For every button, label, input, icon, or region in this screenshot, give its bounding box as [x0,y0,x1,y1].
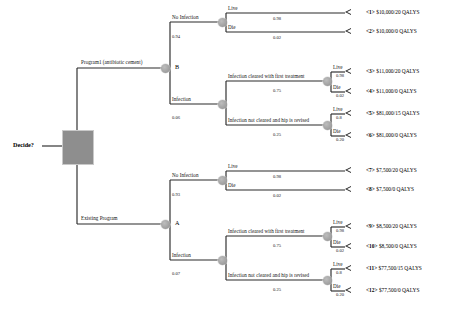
chance-node-no-infection-upper[interactable] [218,18,227,27]
prob-die-10: 0.02 [336,248,344,253]
terminal-payoff-2: <2> $10,000/0 QALYS [366,28,417,34]
chance-node-infection-lower[interactable] [218,256,227,265]
terminal-payoff-4: <4> $11,000/0 QALYS [366,88,417,94]
branch-label-die-12: Die [333,283,341,289]
terminal-id-11: <11> [366,265,377,271]
terminal-payoff-1: <1> $10,000/20 QALYS [366,9,419,15]
terminal-id-3: <3> [366,68,375,74]
terminal-payoff-10: <10> $8,500/0 QALYS [366,243,417,249]
branch-label-live-5: Live [333,106,343,112]
terminal-id-2: <2> [366,28,375,34]
prob-live-3: 0.98 [336,73,344,78]
prob-cleared-first-lower: 0.75 [273,243,281,248]
branch-label-no-infection-lower: No Infection [172,172,198,178]
prob-die-6: 0.20 [336,137,344,142]
chance-node-no-infection-lower[interactable] [218,176,227,185]
terminal-value-12: $77,500/0 QALYS [379,287,420,293]
prob-cleared-first-upper: 0.75 [273,88,281,93]
chance-node-b[interactable] [161,64,170,73]
chance-node-not-cleared-upper[interactable] [323,121,332,130]
terminal-value-8: $7,500/0 QALYS [376,186,414,192]
terminal-marker-3[interactable] [345,68,351,74]
terminal-payoff-3: <3> $11,000/20 QALYS [366,68,419,74]
terminal-payoff-9: <9> $8,500/20 QALYS [366,223,417,229]
terminal-id-4: <4> [366,88,375,94]
branch-label-cleared-first-upper: Infection cleared with first treatment [228,73,305,79]
chance-node-a-label: A [175,219,179,226]
terminal-value-5: $81,000/15 QALYS [376,110,419,116]
terminal-marker-5[interactable] [345,110,351,116]
prob-die-12: 0.20 [336,292,344,297]
terminal-payoff-11: <11> $77,500/15 QALYS [366,265,422,271]
terminal-id-9: <9> [366,223,375,229]
terminal-id-1: <1> [366,9,375,15]
branch-label-program1: Program1 (antibiotic cement) [81,59,142,65]
branch-label-live-7: Live [228,163,238,169]
prob-die-4: 0.02 [336,93,344,98]
prob-live-9: 0.98 [336,228,344,233]
branch-label-not-cleared-upper: Infection not cleared and hip is revised [228,117,309,123]
terminal-payoff-6: <6> $81,000/0 QALYS [366,132,417,138]
prob-not-cleared-upper: 0.25 [273,132,281,137]
terminal-id-6: <6> [366,132,375,138]
prob-live-1: 0.98 [273,16,281,21]
root-label: Decide? [13,141,34,148]
terminal-payoff-12: <12> $77,500/0 QALYS [366,287,419,293]
branch-label-existing-program: Existing Program [81,215,118,221]
terminal-value-7: $7,500/20 QALYS [376,167,417,173]
chance-node-not-cleared-lower[interactable] [323,276,332,285]
terminal-marker-4[interactable] [345,88,351,94]
terminal-value-1: $10,000/20 QALYS [376,9,419,15]
prob-infection-upper: 0.06 [172,115,180,120]
terminal-value-6: $81,000/0 QALYS [376,132,417,138]
terminal-value-4: $11,000/0 QALYS [376,88,416,94]
terminal-id-12: <12> [366,287,378,293]
chance-node-a[interactable] [161,220,170,229]
prob-live-11: 0.8 [336,270,342,275]
terminal-marker-10[interactable] [345,243,351,249]
terminal-marker-12[interactable] [345,287,351,293]
prob-no-infection-upper: 0.94 [172,34,180,39]
branch-label-die-6: Die [333,128,341,134]
branch-label-live-11: Live [333,261,343,267]
prob-not-cleared-lower: 0.25 [273,287,281,292]
branch-label-live-3: Live [333,64,343,70]
terminal-value-10: $8,500/0 QALYS [379,243,417,249]
branch-label-die-4: Die [333,84,341,90]
prob-live-7: 0.98 [273,174,281,179]
terminal-value-11: $77,500/15 QALYS [379,265,422,271]
branch-label-live-1: Live [228,5,238,11]
branch-label-no-infection-upper: No Infection [172,14,198,20]
terminal-payoff-8: <8> $7,500/0 QALYS [366,186,414,192]
prob-live-5: 0.8 [336,115,342,120]
branch-label-live-9: Live [333,219,343,225]
branch-label-not-cleared-lower: Infection not cleared and hip is revised [228,272,309,278]
terminal-marker-9[interactable] [345,223,351,229]
chance-node-cleared-upper[interactable] [323,77,332,86]
terminal-marker-2[interactable] [345,28,351,34]
prob-die-1: 0.02 [273,35,281,40]
terminal-marker-8[interactable] [345,186,351,192]
terminal-payoff-7: <7> $7,500/20 QALYS [366,167,417,173]
branch-label-infection-upper: Infection [172,96,191,102]
decision-node-square[interactable] [62,130,94,165]
terminal-id-7: <7> [366,167,375,173]
chance-node-infection-upper[interactable] [218,100,227,109]
prob-no-infection-lower: 0.93 [172,192,180,197]
chance-node-cleared-lower[interactable] [323,232,332,241]
terminal-id-5: <5> [366,110,375,116]
terminal-value-9: $8,500/20 QALYS [376,223,417,229]
terminal-payoff-5: <5> $81,000/15 QALYS [366,110,419,116]
terminal-marker-1[interactable] [345,9,351,15]
prob-infection-lower: 0.07 [172,271,180,276]
terminal-marker-7[interactable] [345,167,351,173]
branch-label-die-8: Die [228,182,236,188]
chance-node-b-label: B [175,63,179,70]
prob-die-8: 0.02 [273,193,281,198]
branch-label-die-1: Die [228,24,236,30]
branch-label-die-10: Die [333,239,341,245]
terminal-marker-6[interactable] [345,132,351,138]
terminal-marker-11[interactable] [345,265,351,271]
decision-tree-canvas: Decide? Program1 (antibiotic cement) Exi… [0,0,455,312]
terminal-value-2: $10,000/0 QALYS [376,28,417,34]
